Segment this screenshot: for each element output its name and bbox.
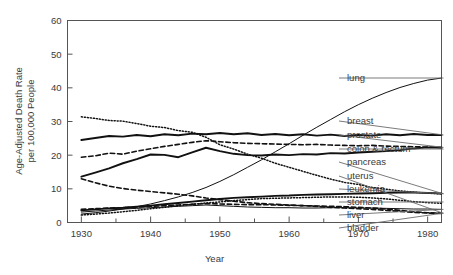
legend-label-lung: lung [347,72,365,83]
y-tick-label: 60 [51,15,62,26]
legend-label-colon-rectum: colon & rectum [347,143,410,154]
legend-label-prostate: prostate [347,129,381,140]
legend-label-leukemia: leukemia [347,183,386,194]
y-tick-label: 0 [56,217,61,228]
y-tick-label: 30 [51,116,62,127]
legend-label-stomach: stomach [347,196,383,207]
y-axis-title-line1: Age-Adjusted Death Rate [13,67,24,175]
legend-label-bladder: bladder [347,222,379,233]
series-line-breast [81,133,441,140]
legend-label-liver: liver [347,209,364,220]
legend-label-pancreas: pancreas [347,156,386,167]
chart-figure: 0102030405060193019401950196019701980 lu… [0,0,453,275]
x-tick-label: 1980 [417,228,438,239]
y-axis-title-line2: per 100,000 People [25,80,36,163]
x-tick-label: 1940 [140,228,161,239]
cancer-death-rate-line-chart: 0102030405060193019401950196019701980 lu… [0,0,453,275]
x-tick-label: 1950 [209,228,230,239]
x-tick-label: 1930 [71,228,92,239]
legend-label-breast: breast [347,115,374,126]
y-tick-label: 40 [51,82,62,93]
x-tick-label: 1960 [279,228,300,239]
legend-label-uterus: uterus [347,170,374,181]
y-tick-label: 10 [51,183,62,194]
y-tick-label: 50 [51,49,62,60]
y-tick-label: 20 [51,150,62,161]
x-axis-title: Year [205,253,224,264]
